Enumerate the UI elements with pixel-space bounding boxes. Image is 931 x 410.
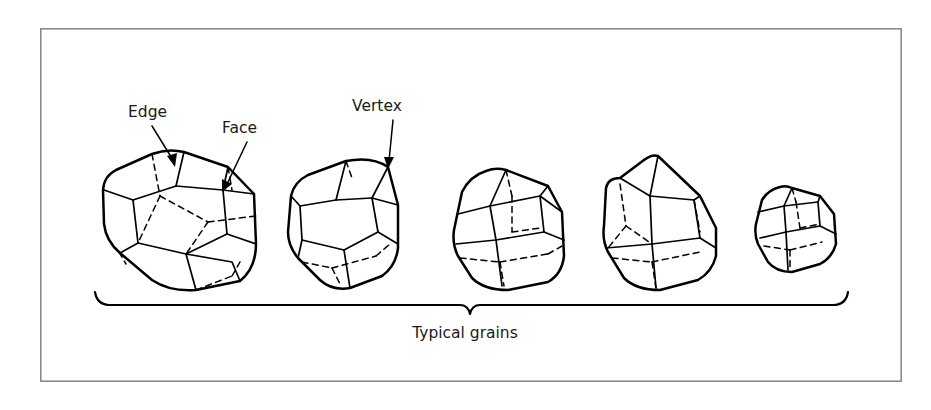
grain-5-edge-e (786, 232, 788, 270)
grain-3-hidden-e (500, 254, 548, 262)
grain-2-edge-d (300, 206, 302, 240)
grain-2-edge-g (344, 250, 350, 288)
grain-1-edge-b (133, 186, 176, 200)
grain-3-edge-a (490, 170, 506, 206)
grain-2-edge-k (336, 198, 372, 200)
grain-5-edge-a (784, 188, 792, 206)
grain-5-edge-d (760, 232, 786, 238)
grain-2-edge-m (372, 198, 398, 205)
typical-grains-caption: Typical grains (411, 324, 518, 342)
grain-4-hidden-a (620, 184, 626, 226)
grain-5-edge-c (784, 206, 786, 232)
grain-3-edge-b (458, 206, 490, 214)
face-label: Face (222, 119, 257, 137)
grain-4-edge-b (650, 196, 652, 244)
edge-label: Edge (128, 103, 167, 121)
grain-4-edge-j (620, 178, 650, 196)
grain-4-hidden-b (626, 226, 652, 244)
grain-4-edge-a (650, 156, 658, 196)
grain-1-hidden-b (160, 196, 208, 222)
grain-3-edge-j (540, 186, 548, 196)
grain-3-hidden-a (506, 170, 512, 196)
grain-2-hidden-d (332, 268, 340, 284)
grain-structure-figure: Edge Face Vertex Typical grains (0, 0, 931, 410)
grain-1-edge-d (133, 200, 138, 243)
grain-4-edge-c (606, 244, 652, 248)
grain-1-edge-e (120, 243, 138, 253)
grain-1-edge-f (138, 243, 186, 254)
grain-3-hidden-g (548, 246, 562, 254)
grain-4-edge-h (650, 196, 694, 200)
figure-canvas: Edge Face Vertex Typical grains (0, 0, 931, 410)
grain-5-hidden-e (790, 242, 822, 250)
grain-3-edge-h (540, 196, 544, 232)
grain-2-edge-e (298, 240, 302, 258)
grain-3 (454, 169, 565, 290)
grain-5-edge-j (818, 196, 820, 202)
edge-leader-line (152, 126, 173, 160)
grain-4 (604, 156, 717, 291)
grain-2-hidden-b (332, 256, 376, 268)
grain-3-edge-i (490, 196, 540, 206)
grain-1-edge-n (186, 254, 240, 281)
grain-1-hidden-a (152, 154, 160, 196)
grain-4-hidden-e (612, 258, 652, 262)
grain-2-edge-c (291, 196, 300, 206)
grain-1-edge-j (223, 190, 227, 234)
grain-3-edge-d (456, 240, 496, 244)
grain-2-edge-l (372, 167, 388, 198)
vertex-label: Vertex (352, 97, 402, 115)
callout-face: Face (222, 119, 257, 192)
grain-2-hidden-e (346, 161, 352, 178)
grain-2-edge-f (302, 240, 344, 250)
grain-5-hidden-b (796, 202, 800, 228)
grain-1-edge-a (176, 152, 184, 186)
grain-4-outline (604, 156, 717, 291)
grain-2-hidden-c (376, 244, 390, 256)
grain-3-hidden-c (512, 228, 540, 232)
grain-4-hidden-c (608, 226, 626, 248)
grain-4-edge-i (694, 196, 700, 200)
grain-1-edge-c (104, 190, 133, 200)
grain-5-edge-i (784, 202, 818, 206)
brace-path (95, 292, 848, 314)
grain-2-edge-a (336, 161, 346, 200)
grain-2-edge-j (372, 198, 378, 232)
grain-1-edge-l (176, 186, 223, 190)
grain-3-edge-e (496, 240, 502, 286)
grain-5-edge-h (818, 202, 820, 226)
grain-1-edge-g (186, 254, 196, 290)
edge-arrow-head (167, 153, 177, 167)
grain-5-edge-g (820, 226, 836, 234)
grain-4-hidden-d (694, 200, 700, 232)
grain-3-edge-c (490, 206, 496, 240)
grain-2-edge-b (300, 200, 336, 206)
grain-3-edge-g (544, 232, 564, 240)
callout-vertex: Vertex (352, 97, 402, 169)
grain-4-hidden-f (652, 252, 700, 262)
grain-1-hidden-e (138, 196, 160, 243)
grain-5 (755, 186, 836, 272)
grain-2 (288, 159, 398, 288)
grain-3-edge-f (496, 232, 544, 240)
grain-1-edge-i (227, 234, 256, 244)
grain-4-edge-f (700, 238, 716, 248)
grain-3-hidden-d (460, 258, 500, 262)
grain-2-edge-i (378, 232, 398, 244)
grain-4-edge-e (652, 238, 700, 244)
grain-1-hidden-c (208, 216, 256, 222)
grain-5-edge-b (758, 206, 784, 212)
typical-grains-brace (95, 292, 848, 314)
grain-2-edge-h (344, 232, 378, 250)
vertex-leader-line (389, 120, 393, 161)
